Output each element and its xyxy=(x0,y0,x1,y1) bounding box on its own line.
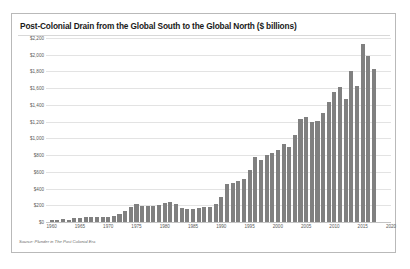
bar xyxy=(327,102,331,222)
bar xyxy=(236,181,240,222)
y-axis-tick-label: $400 xyxy=(14,186,44,191)
bar xyxy=(55,220,59,222)
bar xyxy=(349,71,353,222)
x-axis-tick-label: 1970 xyxy=(103,224,113,229)
bar xyxy=(332,92,336,222)
bar xyxy=(276,150,280,222)
bar xyxy=(242,179,246,222)
y-axis-tick-label: $600 xyxy=(14,169,44,174)
bar xyxy=(355,86,359,222)
bar xyxy=(84,217,88,222)
bar xyxy=(61,219,65,222)
bar xyxy=(146,206,150,222)
plot-area: $2,200$2,000$1,800$1,600$1,400$1,200$1,0… xyxy=(12,14,397,254)
bar xyxy=(338,87,342,222)
bar xyxy=(231,183,235,222)
bar xyxy=(202,207,206,222)
x-axis-tick-label: 1990 xyxy=(216,224,226,229)
bar xyxy=(361,44,365,222)
bar-series xyxy=(46,38,391,222)
bar xyxy=(117,214,121,222)
x-axis: 1960196519701975198019851990199520002005… xyxy=(46,224,391,234)
bar xyxy=(112,216,116,222)
bar xyxy=(180,208,184,222)
y-axis-tick-label: $0 xyxy=(14,220,44,225)
x-axis-tick-label: 2020 xyxy=(386,224,396,229)
y-axis-tick-label: $2,200 xyxy=(14,36,44,41)
bar xyxy=(72,218,76,222)
bar xyxy=(293,135,297,222)
y-axis-tick-label: $1,600 xyxy=(14,86,44,91)
y-axis-tick-label: $1,200 xyxy=(14,119,44,124)
gridline xyxy=(46,222,391,223)
bar xyxy=(225,184,229,222)
y-axis-tick-label: $1,000 xyxy=(14,136,44,141)
bar xyxy=(168,202,172,222)
x-axis-tick-label: 2010 xyxy=(329,224,339,229)
bar xyxy=(89,217,93,222)
y-axis: $2,200$2,000$1,800$1,600$1,400$1,200$1,0… xyxy=(14,38,44,222)
bar xyxy=(95,217,99,222)
y-axis-tick-label: $2,000 xyxy=(14,52,44,57)
bar xyxy=(208,207,212,222)
bar xyxy=(78,218,82,222)
bar xyxy=(287,147,291,222)
x-axis-tick-label: 2005 xyxy=(301,224,311,229)
x-axis-tick-label: 1965 xyxy=(75,224,85,229)
bar xyxy=(270,153,274,222)
bar xyxy=(259,160,263,222)
bar xyxy=(50,220,54,223)
bar xyxy=(101,217,105,222)
bar xyxy=(298,119,302,222)
bar xyxy=(304,117,308,222)
y-axis-tick-label: $200 xyxy=(14,203,44,208)
x-axis-tick-label: 1960 xyxy=(47,224,57,229)
x-axis-tick-label: 1995 xyxy=(244,224,254,229)
x-axis-tick-label: 1985 xyxy=(188,224,198,229)
bar xyxy=(174,204,178,222)
bar xyxy=(219,197,223,222)
bar xyxy=(106,217,110,222)
bar xyxy=(372,69,376,222)
bar xyxy=(129,207,133,222)
bar xyxy=(151,206,155,222)
bar xyxy=(191,209,195,222)
bar xyxy=(282,144,286,222)
bar xyxy=(157,205,161,222)
bar xyxy=(366,56,370,222)
bar xyxy=(197,208,201,222)
x-axis-tick-label: 1980 xyxy=(160,224,170,229)
bar xyxy=(344,99,348,222)
x-axis-tick-label: 1975 xyxy=(131,224,141,229)
bar xyxy=(67,220,71,223)
bar xyxy=(321,113,325,222)
bar xyxy=(140,206,144,222)
bar xyxy=(185,209,189,222)
source-note: Source: Plunder in The Post Colonial Era xyxy=(19,239,95,244)
y-axis-tick-label: $1,400 xyxy=(14,102,44,107)
x-axis-tick-label: 2015 xyxy=(358,224,368,229)
bar xyxy=(248,170,252,222)
bar xyxy=(123,211,127,222)
y-axis-tick-label: $1,800 xyxy=(14,69,44,74)
bar xyxy=(163,203,167,222)
bar xyxy=(310,122,314,222)
bar xyxy=(253,157,257,222)
y-axis-tick-label: $800 xyxy=(14,153,44,158)
x-axis-tick-label: 2000 xyxy=(273,224,283,229)
bar xyxy=(265,155,269,222)
bar xyxy=(134,204,138,222)
bar xyxy=(315,121,319,222)
chart-card: Post-Colonial Drain from the Global Sout… xyxy=(11,13,396,253)
bar xyxy=(214,204,218,222)
